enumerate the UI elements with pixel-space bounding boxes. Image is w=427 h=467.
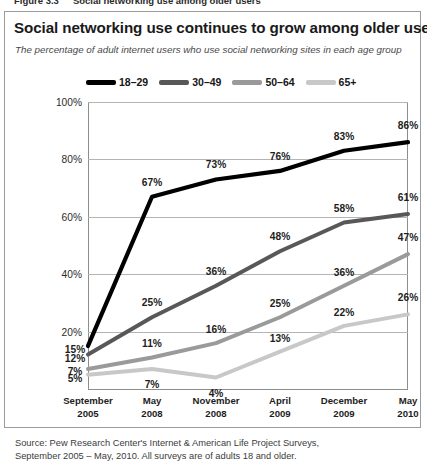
legend-label: 30–49: [192, 76, 221, 88]
legend-item-3049: 30–49: [159, 76, 221, 88]
data-label: 47%: [398, 232, 418, 243]
x-axis-tick-line: November: [193, 395, 240, 408]
data-label: 86%: [398, 120, 418, 131]
x-axis-tick-line: 2005: [63, 408, 113, 421]
legend-swatch-icon: [306, 80, 336, 85]
x-axis-tick-line: May: [141, 395, 162, 408]
x-axis-tick-line: 2010: [397, 408, 418, 421]
y-axis-tick: 60%: [62, 211, 82, 222]
x-axis-tick: November2008: [193, 395, 240, 420]
data-label: 73%: [206, 159, 226, 170]
data-label: 12%: [65, 352, 85, 363]
source-note: Source: Pew Research Center's Internet &…: [15, 437, 415, 462]
legend-swatch-icon: [232, 80, 262, 85]
series-line-65+: [88, 314, 408, 377]
x-axis-tick-line: 2008: [193, 408, 240, 421]
data-label: 11%: [142, 338, 162, 349]
legend-label: 50–64: [265, 76, 294, 88]
x-axis-tick-line: 2009: [321, 408, 367, 421]
data-label: 76%: [270, 150, 290, 161]
x-axis-tick-line: May: [397, 395, 418, 408]
x-axis-tick-line: 2009: [269, 408, 291, 421]
x-axis-tick-line: December: [321, 395, 367, 408]
series-lines: [88, 102, 408, 389]
chart-subtitle: The percentage of adult internet users w…: [15, 44, 419, 55]
data-label: 36%: [334, 266, 354, 277]
data-label: 25%: [270, 298, 290, 309]
x-axis-tick: May2008: [141, 395, 162, 420]
data-label: 26%: [398, 292, 418, 303]
data-label: 67%: [142, 176, 162, 187]
plot-area: 100%80%60%40%20% 15%67%73%76%83%86%12%25…: [88, 102, 408, 389]
data-label: 16%: [206, 324, 226, 335]
y-axis-tick: 40%: [62, 269, 82, 280]
chart-legend: 18–2930–4950–6465+: [86, 74, 366, 90]
data-label: 83%: [334, 130, 354, 141]
figure-caption-number: Figure 3.3: [14, 0, 59, 6]
x-axis-tick-line: 2008: [141, 408, 162, 421]
source-line-1: Source: Pew Research Center's Internet &…: [15, 437, 415, 450]
legend-label: 65+: [339, 76, 357, 88]
data-label: 22%: [334, 306, 354, 317]
x-axis-labels: September2005May2008November2008April200…: [88, 395, 408, 425]
x-axis-tick: December2009: [321, 395, 367, 420]
legend-item-1829: 18–29: [86, 76, 148, 88]
y-axis-tick: 80%: [62, 154, 82, 165]
legend-swatch-icon: [159, 80, 189, 85]
x-axis-tick: April2009: [269, 395, 291, 420]
series-line-5064: [88, 254, 408, 369]
figure-caption-text: Social networking use among older users: [73, 0, 261, 6]
source-line-2: September 2005 – May, 2010. All surveys …: [15, 450, 415, 463]
legend-swatch-icon: [86, 80, 116, 85]
y-axis-tick: 20%: [62, 326, 82, 337]
series-line-1829: [88, 142, 408, 346]
data-label: 13%: [270, 332, 290, 343]
x-axis-tick-line: September: [63, 395, 113, 408]
x-axis-tick-line: April: [269, 395, 291, 408]
chart-page: Figure 3.3Social networking use among ol…: [0, 0, 427, 467]
y-axis-tick: 100%: [56, 97, 82, 108]
data-label: 61%: [398, 191, 418, 202]
legend-item-65+: 65+: [306, 76, 357, 88]
data-label: 48%: [270, 231, 290, 242]
legend-item-5064: 50–64: [232, 76, 294, 88]
data-label: 36%: [206, 265, 226, 276]
data-label: 7%: [145, 378, 160, 389]
data-label: 5%: [68, 372, 83, 383]
chart-title: Social networking use continues to grow …: [14, 19, 414, 36]
data-label: 58%: [334, 202, 354, 213]
data-label: 25%: [142, 297, 162, 308]
x-axis-baseline: [88, 389, 408, 390]
x-axis-tick: September2005: [63, 395, 113, 420]
figure-caption: Figure 3.3Social networking use among ol…: [14, 0, 414, 7]
x-axis-tick: May2010: [397, 395, 418, 420]
legend-label: 18–29: [119, 76, 148, 88]
